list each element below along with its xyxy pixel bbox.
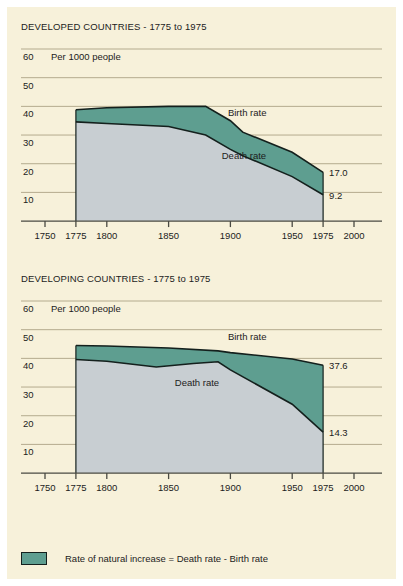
death-end-value: 9.2 [329, 190, 342, 201]
y-tick-label: 60 [23, 51, 34, 62]
chart-developing-title: DEVELOPING COUNTRIES - 1775 to 1975 [21, 273, 211, 284]
y-tick-label: 10 [23, 446, 34, 457]
y-tick-label: 40 [23, 360, 34, 371]
chart-developing-plot: 605040302010Per 1000 people1750177518001… [7, 269, 396, 523]
natural-increase-swatch [21, 552, 47, 565]
y-tick-label: 40 [23, 108, 34, 119]
y-tick-label: 20 [23, 418, 34, 429]
birth-rate-label: Birth rate [228, 107, 267, 118]
x-tick-label: 1775 [65, 230, 86, 241]
chart-developed-title: DEVELOPED COUNTRIES - 1775 to 1975 [21, 21, 207, 32]
x-tick-label: 1950 [282, 482, 303, 493]
x-tick-label: 1850 [158, 230, 179, 241]
x-tick-label: 1900 [220, 482, 241, 493]
death-rate-label: Death rate [175, 377, 219, 388]
death-rate-label: Death rate [222, 150, 266, 161]
x-tick-label: 1750 [34, 482, 55, 493]
x-tick-label: 1850 [158, 482, 179, 493]
unit-label: Per 1000 people [51, 51, 121, 62]
x-tick-label: 2000 [343, 230, 364, 241]
y-tick-label: 50 [23, 332, 34, 343]
chart-developing: DEVELOPING COUNTRIES - 1775 to 1975 6050… [7, 269, 396, 523]
x-tick-label: 1800 [96, 482, 117, 493]
y-tick-label: 20 [23, 166, 34, 177]
legend: Rate of natural increase = Death rate - … [21, 552, 268, 565]
chart-developed-plot: 605040302010Per 1000 people1750177518001… [7, 7, 396, 269]
legend-label: Rate of natural increase = Death rate - … [65, 553, 268, 564]
x-tick-label: 1950 [282, 230, 303, 241]
chart-panel: DEVELOPED COUNTRIES - 1775 to 1975 60504… [7, 7, 396, 579]
x-tick-label: 1900 [220, 230, 241, 241]
x-tick-label: 1800 [96, 230, 117, 241]
x-tick-label: 1975 [313, 230, 334, 241]
chart-page: DEVELOPED COUNTRIES - 1775 to 1975 60504… [0, 0, 403, 586]
x-tick-label: 2000 [343, 482, 364, 493]
x-tick-label: 1750 [34, 230, 55, 241]
x-tick-label: 1975 [313, 482, 334, 493]
chart-developed: DEVELOPED COUNTRIES - 1775 to 1975 60504… [7, 7, 396, 269]
unit-label: Per 1000 people [51, 303, 121, 314]
y-tick-label: 30 [23, 137, 34, 148]
y-tick-label: 50 [23, 80, 34, 91]
birth-rate-label: Birth rate [228, 331, 267, 342]
y-tick-label: 30 [23, 389, 34, 400]
y-tick-label: 10 [23, 194, 34, 205]
y-tick-label: 60 [23, 303, 34, 314]
death-end-value: 14.3 [329, 427, 348, 438]
birth-end-value: 17.0 [329, 167, 348, 178]
birth-end-value: 37.6 [329, 360, 348, 371]
x-tick-label: 1775 [65, 482, 86, 493]
